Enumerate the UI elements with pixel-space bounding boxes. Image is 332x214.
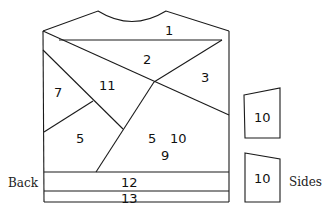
piece-lines [43,31,229,191]
back-region-labels: 1 2 3 11 7 5 5 10 9 12 13 [54,23,209,206]
region-label-11: 11 [99,78,116,93]
sweater-diagram: 1 2 3 11 7 5 5 10 9 12 13 Back 10 10 Sid… [0,0,332,214]
side-panel-bottom: 10 [245,153,280,202]
region-label-3: 3 [201,70,209,85]
region-label-12: 12 [121,175,138,190]
region-label-5-right: 5 [148,131,156,146]
region-label-13: 13 [121,191,138,206]
region-label-9: 9 [161,148,169,163]
region-label-5-left: 5 [76,131,84,146]
region-label-2: 2 [143,52,151,67]
side-panel-top: 10 [244,88,280,138]
back-caption: Back [8,176,39,190]
region-label-10: 10 [170,131,187,146]
sides-caption: Sides [289,175,322,189]
side-panel-bottom-label: 10 [254,171,271,186]
side-panel-top-label: 10 [254,110,271,125]
region-label-1: 1 [165,23,173,38]
region-label-7: 7 [54,85,62,100]
